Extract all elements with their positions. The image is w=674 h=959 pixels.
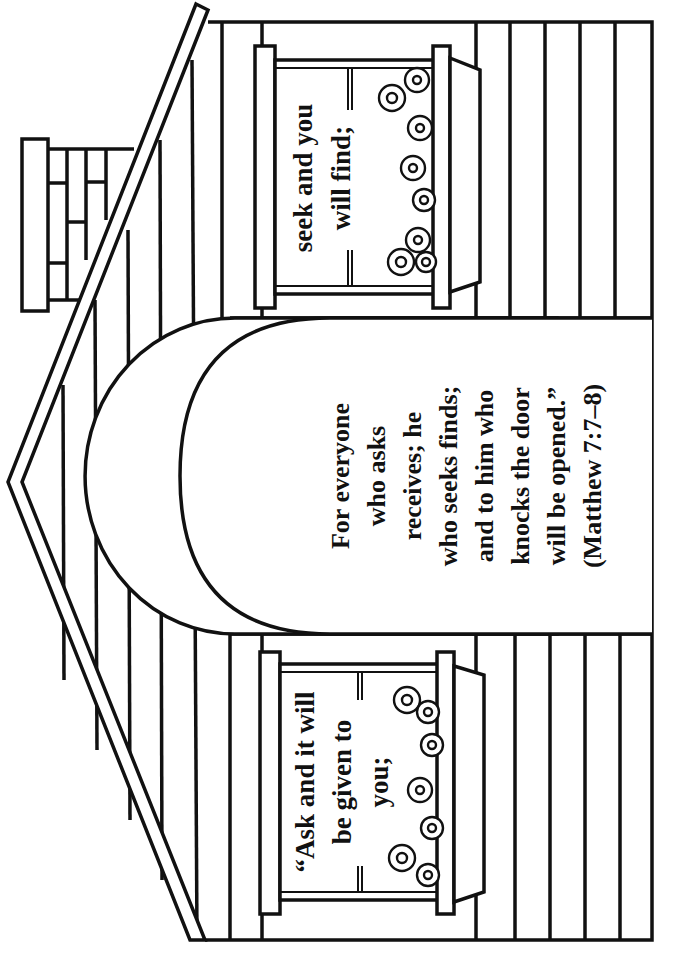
door-line-7: will be opened.” [542, 387, 571, 565]
door-line-3: receives; he [398, 412, 427, 541]
door-line-8: (Matthew 7:7–8) [578, 384, 607, 568]
window-left-line-3: you; [364, 756, 394, 807]
window-left-line-1: “Ask and it will [290, 691, 320, 872]
door-line-6: knocks the door [506, 387, 535, 565]
door-line-2: who asks [362, 426, 391, 526]
house-coloring-page: seek and you will find; “Ask and it will… [0, 0, 674, 959]
window-left-line-2: be given to [327, 720, 357, 845]
window-right-line-1: seek and you [288, 104, 318, 253]
door-line-4: who seeks finds; [434, 386, 463, 567]
window-right-line-2: will find; [326, 126, 356, 230]
door-line-1: For everyone [326, 403, 355, 549]
door-line-5: and to him who [470, 390, 499, 563]
